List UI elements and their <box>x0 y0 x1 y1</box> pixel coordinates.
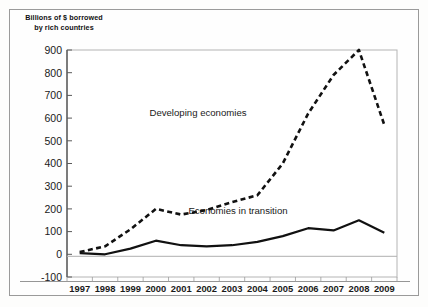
x-tick-label-2001: 2001 <box>171 283 192 294</box>
x-tick-label-1999: 1999 <box>120 283 141 294</box>
y-tick-label--100: -100 <box>41 271 62 283</box>
plot-area-rect <box>67 50 397 277</box>
y-tick-label-400: 400 <box>44 157 62 169</box>
x-tick-label-2006: 2006 <box>298 283 319 294</box>
y-tick-label-200: 200 <box>44 203 62 215</box>
chart-figure: Billions of $ borrowed by rich countries… <box>0 0 428 307</box>
x-tick-label-2009: 2009 <box>374 283 395 294</box>
x-tick-label-2000: 2000 <box>145 283 166 294</box>
x-tick-label-2005: 2005 <box>272 283 293 294</box>
plot-background <box>67 50 397 277</box>
x-tick-label-2008: 2008 <box>348 283 369 294</box>
x-tick-marks <box>20 277 410 282</box>
x-tick-label-2003: 2003 <box>222 283 243 294</box>
y-tick-labels: 9008007006005004003002001000-100 <box>41 44 62 283</box>
series-label-economies-in-transition: Economies in transition <box>188 205 287 216</box>
y-tick-label-700: 700 <box>44 89 62 101</box>
y-tick-label-600: 600 <box>44 112 62 124</box>
x-tick-label-2002: 2002 <box>196 283 217 294</box>
y-tick-label-0: 0 <box>56 248 62 260</box>
y-tick-label-900: 900 <box>44 44 62 56</box>
line-chart-plot: 9008007006005004003002001000-100 1997199… <box>0 0 428 307</box>
y-tick-label-800: 800 <box>44 67 62 79</box>
x-tick-label-1997: 1997 <box>69 283 90 294</box>
x-tick-labels: 1997199819992000200120022003200420052006… <box>69 283 394 294</box>
x-tick-label-2007: 2007 <box>323 283 344 294</box>
x-tick-label-2004: 2004 <box>247 283 269 294</box>
y-tick-label-100: 100 <box>44 225 62 237</box>
y-tick-label-500: 500 <box>44 135 62 147</box>
y-tick-label-300: 300 <box>44 180 62 192</box>
x-tick-label-1998: 1998 <box>95 283 116 294</box>
series-label-developing-economies: Developing economies <box>149 107 246 118</box>
